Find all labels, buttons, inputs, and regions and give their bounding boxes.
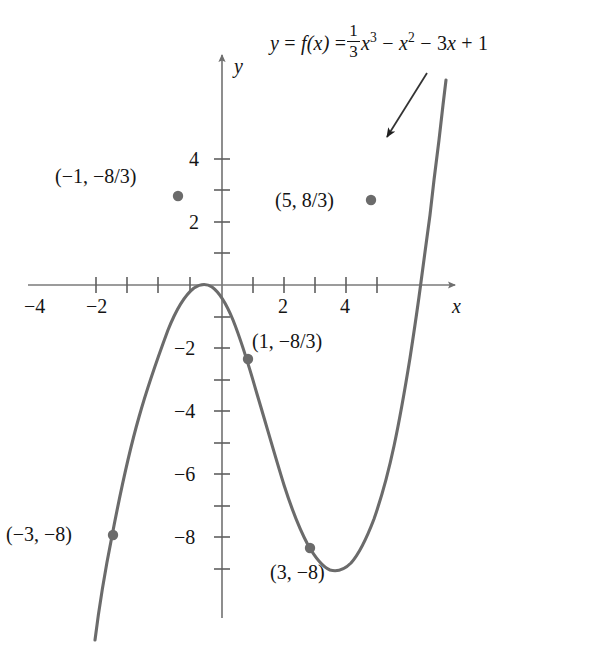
equation-term1-var: x — [361, 32, 370, 54]
y-axis — [214, 55, 230, 618]
point-local-max — [173, 191, 183, 201]
equation-term2-exponent: 2 — [408, 30, 415, 45]
equation-minus-2: − — [420, 32, 431, 54]
function-equation: y = f(x) =13x3 − x2 − 3x + 1 — [270, 22, 488, 61]
equation-function-arg: (x) — [307, 32, 330, 54]
equation-term3-var: x — [447, 32, 456, 54]
annotated-points — [108, 191, 376, 553]
equation-equals-1: = — [284, 32, 295, 54]
equation-equals-2: = — [335, 32, 346, 54]
point-left-branch — [108, 530, 118, 540]
x-axis-label: x — [452, 296, 461, 316]
equation-lhs: y — [270, 32, 279, 54]
point-five-eight-thirds — [366, 195, 376, 205]
equation-constant: 1 — [478, 32, 488, 54]
y-tick-label-minus6: −6 — [174, 464, 195, 484]
x-tick-label-minus4: −4 — [24, 296, 45, 316]
y-tick-label-minus2: −2 — [174, 338, 195, 358]
equation-fraction-one-third: 13 — [347, 22, 360, 61]
equation-plus: + — [461, 32, 472, 54]
equation-term1-exponent: 3 — [370, 30, 377, 45]
y-tick-label-minus4: −4 — [174, 401, 195, 421]
point-label-local-max: (−1, −8/3) — [55, 166, 136, 186]
point-inflection — [243, 354, 253, 364]
x-tick-label-4: 4 — [340, 296, 350, 316]
x-axis — [28, 277, 455, 293]
equation-pointer-arrow — [387, 73, 427, 137]
point-label-left-branch: (−3, −8) — [6, 524, 72, 544]
equation-minus-1: − — [382, 32, 393, 54]
point-label-inflection: (1, −8/3) — [252, 331, 322, 351]
equation-term3-coeff: 3 — [437, 32, 447, 54]
cubic-curve — [95, 80, 446, 640]
equation-term2-var: x — [399, 32, 408, 54]
x-tick-label-2: 2 — [278, 296, 288, 316]
y-tick-label-2: 2 — [189, 212, 199, 232]
figure-container: y = f(x) =13x3 − x2 − 3x + 1 y x −4 −2 2… — [0, 0, 606, 655]
y-axis-label: y — [234, 56, 243, 76]
x-tick-label-minus2: −2 — [86, 296, 107, 316]
fraction-denominator: 3 — [347, 43, 360, 61]
fraction-numerator: 1 — [347, 22, 360, 40]
cubic-function-plot — [0, 0, 606, 655]
y-tick-label-minus8: −8 — [174, 527, 195, 547]
point-label-local-min: (3, −8) — [270, 562, 325, 582]
y-tick-label-4: 4 — [189, 149, 199, 169]
point-local-min — [305, 543, 315, 553]
point-label-right: (5, 8/3) — [275, 190, 334, 210]
